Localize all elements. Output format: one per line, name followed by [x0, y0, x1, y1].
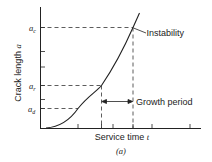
instability-label: Instability: [147, 28, 185, 38]
growth-period-label: Growth period: [136, 97, 193, 107]
growth-period-arrow: [102, 100, 133, 104]
ad-label: ad: [28, 104, 36, 115]
crack-growth-curve: [46, 13, 140, 128]
ar-label: ar: [29, 81, 36, 92]
reference-lines: [41, 28, 134, 129]
figure-caption: (a): [116, 146, 126, 156]
ac-label: ac: [29, 23, 36, 34]
instability-leader: [134, 28, 147, 33]
y-axis-ticks: [41, 28, 46, 109]
y-axis-label: Crack length a: [13, 44, 23, 101]
crack-growth-diagram: Instability Growth period ac ar ad Crack…: [0, 0, 212, 162]
diagram-canvas: Instability Growth period ac ar ad Crack…: [0, 0, 212, 162]
x-axis-ticks: [78, 124, 190, 129]
x-axis-label: Service time t: [95, 132, 150, 142]
